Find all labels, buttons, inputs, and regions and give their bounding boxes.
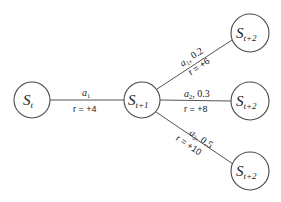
node-s-t-plus-2-bot: St+2 (231, 152, 269, 190)
node-s-t-plus-2-top: St+2 (231, 14, 269, 52)
node-s-t-plus-2-mid: St+2 (231, 82, 269, 120)
edge-reward-label: r = +4 (73, 104, 97, 114)
edge-label-a1-0.2: a1, 0.2 r = +6 (178, 45, 212, 78)
edge-reward-label: r = +8 (184, 104, 208, 114)
edge-st1-to-st2-mid (160, 100, 231, 101)
node-s-t-plus-1: St+1 (124, 82, 160, 118)
svg-text:a1: a1 (82, 87, 90, 99)
node-s-t: St (14, 82, 50, 118)
edge-label-a2-0.3: a2, 0.3 (184, 88, 210, 100)
edge-label-a1: a1 (82, 87, 90, 99)
svg-text:a2, 0.3: a2, 0.3 (184, 88, 210, 100)
state-transition-diagram: a1 r = +4 a1, 0.2 r = +6 a2, 0.3 r = +8 … (0, 0, 281, 202)
